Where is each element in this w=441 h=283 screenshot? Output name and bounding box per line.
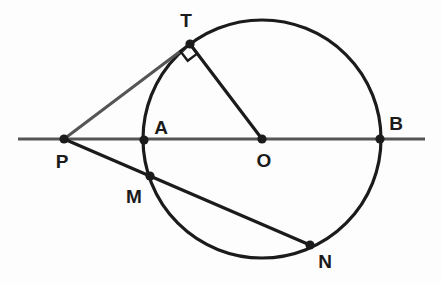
point-label-o: O	[257, 150, 272, 171]
point-label-m: M	[126, 186, 142, 207]
point-label-b: B	[389, 113, 403, 134]
point-dot-n	[305, 240, 314, 249]
point-label-t: T	[180, 10, 192, 31]
point-dot-a	[139, 135, 148, 144]
radius-segment-to	[190, 44, 262, 139]
geometry-diagram: T P A O B M N	[0, 0, 441, 283]
point-dot-t	[185, 39, 194, 48]
geometry-canvas: T P A O B M N	[0, 0, 441, 283]
point-label-n: N	[318, 251, 332, 272]
secant-segment-pn	[64, 139, 310, 245]
point-dot-o	[257, 134, 266, 143]
point-label-a: A	[154, 117, 168, 138]
point-label-p: P	[56, 151, 69, 172]
point-dot-m	[145, 171, 154, 180]
point-dot-b	[375, 134, 384, 143]
point-dot-p	[59, 134, 68, 143]
tangent-segment-pt	[64, 44, 190, 139]
